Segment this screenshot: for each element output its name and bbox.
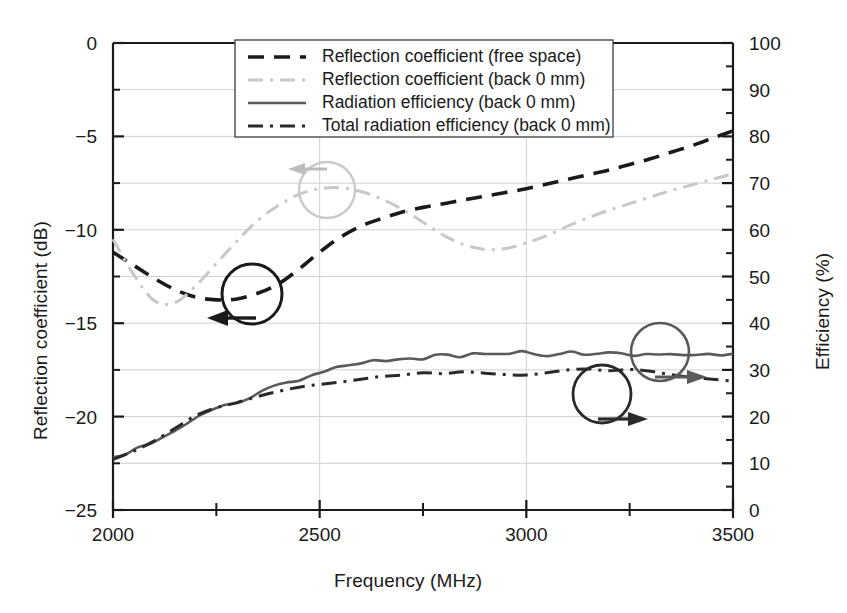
x-tick-label: 2000 — [92, 524, 134, 545]
legend-label-3: Total radiation efficiency (back 0 mm) — [322, 115, 611, 135]
x-tick-label: 2500 — [299, 524, 341, 545]
y-right-tick-label: 20 — [749, 407, 770, 428]
y-axis-left-tick-labels: −25−20−15−10−50 — [65, 33, 97, 521]
x-axis-tick-labels: 2000250030003500 — [92, 524, 754, 545]
annotation-circle-reflection-free — [222, 264, 282, 324]
y-left-tick-label: −5 — [75, 126, 97, 147]
y-left-tick-label: −20 — [65, 407, 97, 428]
y-right-tick-label: 30 — [749, 360, 770, 381]
series-line-1 — [113, 174, 733, 305]
series-line-2 — [113, 351, 733, 457]
y-right-tick-label: 0 — [749, 500, 760, 521]
y-right-tick-label: 80 — [749, 126, 770, 147]
y-right-tick-label: 50 — [749, 267, 770, 288]
y-left-tick-label: 0 — [86, 33, 97, 54]
annotation-arrow-head-radiation-efficiency — [687, 370, 707, 384]
y-left-tick-label: −25 — [65, 500, 97, 521]
legend-label-0: Reflection coefficient (free space) — [322, 46, 581, 66]
y-right-tick-label: 60 — [749, 220, 770, 241]
annotation-circle-total-efficiency — [573, 365, 631, 423]
series-line-3 — [113, 369, 733, 460]
annotation-circle-radiation-efficiency — [631, 323, 689, 381]
y-right-tick-label: 70 — [749, 173, 770, 194]
legend-label-2: Radiation efficiency (back 0 mm) — [322, 92, 576, 112]
chart-legend: Reflection coefficient (free space)Refle… — [235, 40, 613, 137]
chart-plot-area: −25−20−15−10−50 0102030405060708090100 2… — [0, 0, 847, 613]
y-axis-right-ticks — [722, 43, 733, 510]
y-right-tick-label: 100 — [749, 33, 781, 54]
annotation-arrow-head-total-efficiency — [628, 412, 648, 426]
x-tick-label: 3500 — [712, 524, 754, 545]
y-right-tick-label: 90 — [749, 80, 770, 101]
y-axis-right-tick-labels: 0102030405060708090100 — [749, 33, 781, 521]
y-right-tick-label: 10 — [749, 453, 770, 474]
data-series-layer — [113, 131, 733, 460]
x-tick-label: 3000 — [505, 524, 547, 545]
y-left-tick-label: −10 — [65, 220, 97, 241]
annotation-arrow-head-reflection-back — [288, 163, 305, 175]
chart-figure: Reflection coefficient (dB) Efficiency (… — [0, 0, 847, 613]
y-right-tick-label: 40 — [749, 313, 770, 334]
y-left-tick-label: −15 — [65, 313, 97, 334]
legend-label-1: Reflection coefficient (back 0 mm) — [322, 69, 585, 89]
